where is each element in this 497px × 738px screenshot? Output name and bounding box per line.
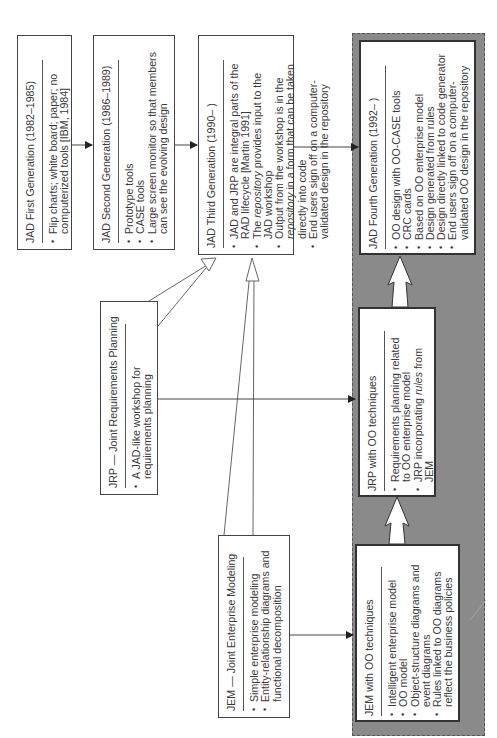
jem-box: JEM — Joint Enterprise Modeling Simple e… <box>218 535 290 718</box>
jrp-list: A JAD-like workshop for requirements pla… <box>131 310 154 488</box>
jad3-list: JAD and JRP are integral parts of the RA… <box>229 44 331 248</box>
list-item: End users sign off on a computer- valida… <box>447 50 470 249</box>
divider <box>223 60 224 248</box>
divider <box>118 60 119 243</box>
stray-line <box>470 600 486 620</box>
list-item: Flip charts; white board; paper; no comp… <box>48 44 71 243</box>
divider <box>381 567 382 716</box>
jad2-title: JAD Second Generation (1986–1989) <box>100 44 118 243</box>
jrp-oo-list: Requirements planning related to OO ente… <box>390 317 435 491</box>
divider <box>385 66 386 249</box>
jrp-to-jad3-arrow <box>149 258 216 326</box>
list-item: Entity-relationship diagrams and functio… <box>260 544 283 711</box>
jad-fourth-generation-box: JAD Fourth Generation (1992– ) OO design… <box>359 40 476 255</box>
list-item: OO model <box>398 554 409 716</box>
jad3-title: JAD Third Generation (1990– ) <box>205 44 223 248</box>
jad4-list: OO design with OO-CASE tools CRC cards B… <box>391 50 470 249</box>
jrp-oo-title: JRP with OO techniques <box>366 317 384 491</box>
jrp-box: JRP — Joint Requirements Planning A JAD-… <box>100 301 158 495</box>
list-item: Requirements planning related to OO ente… <box>390 317 413 491</box>
jrpoo-to-jad4-arrow <box>388 256 412 307</box>
jem-oo-title: JEM with OO techniques <box>363 554 381 716</box>
list-item: CASE tools <box>135 44 146 243</box>
list-item: Object-structure diagrams and event diag… <box>410 554 433 716</box>
jem-oo-list: Intelligent enterprise model OO model Ob… <box>387 554 455 716</box>
jad2-list: Prototype tools CASE tools Large screen … <box>124 44 169 243</box>
list-item: Rules linked to OO diagrams reflect the … <box>432 554 455 716</box>
jrp-with-oo-box: JRP with OO techniques Requirements plan… <box>358 307 436 497</box>
list-item: A JAD-like workshop for requirements pla… <box>131 310 154 488</box>
divider <box>243 557 244 711</box>
list-item: The repository provides input to the JAD… <box>252 44 275 248</box>
jem-to-jad3-arrow <box>224 258 259 535</box>
list-item: JRP incorporating rules from JEM <box>413 317 436 491</box>
list-item: Large screen monitor so that members can… <box>147 44 170 243</box>
list-item: CRC cards <box>402 50 413 249</box>
jem-list: Simple enterprise modeling Entity-relati… <box>249 544 283 711</box>
jemoo-to-jrpoo-arrow <box>385 497 409 544</box>
jad-first-generation-box: JAD First Generation (1982–1985) Flip ch… <box>17 35 72 250</box>
jem-with-oo-box: JEM with OO techniques Intelligent enter… <box>355 544 460 722</box>
jad-third-generation-box: JAD Third Generation (1990– ) JAD and JR… <box>198 35 294 255</box>
divider <box>384 331 385 491</box>
list-item: Output from the workshop is in the repos… <box>274 44 308 248</box>
jrp-title: JRP — Joint Requirements Planning <box>107 310 125 488</box>
jad4-title: JAD Fourth Generation (1992– ) <box>367 50 385 249</box>
divider <box>42 60 43 243</box>
jad1-list: Flip charts; white board; paper; no comp… <box>48 44 71 243</box>
jad-second-generation-box: JAD Second Generation (1986–1989) Protot… <box>93 35 175 250</box>
list-item: JAD and JRP are integral parts of the RA… <box>229 44 252 248</box>
jem-title: JEM — Joint Enterprise Modeling <box>225 544 243 711</box>
list-item: End users sign off on a computer- valida… <box>308 44 331 248</box>
jad1-title: JAD First Generation (1982–1985) <box>24 44 42 243</box>
divider <box>125 324 126 488</box>
